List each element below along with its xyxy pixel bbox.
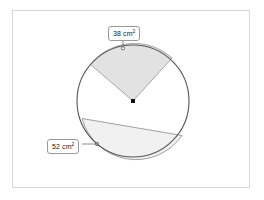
sector-area-exponent: 2 <box>133 27 136 33</box>
sector-arc-marker <box>121 47 124 50</box>
segment-area-callout: 52 cm2 <box>47 139 79 154</box>
center-point-marker <box>131 99 135 103</box>
segment-region <box>82 119 182 160</box>
diagram-page: 38 cm2 52 cm2 <box>0 0 264 200</box>
sector-area-label: 38 cm <box>113 30 133 37</box>
segment-area-exponent: 2 <box>72 140 75 146</box>
sector-area-callout: 38 cm2 <box>108 26 140 41</box>
segment-area-label: 52 cm <box>52 143 72 150</box>
segment-arc-marker <box>95 142 98 145</box>
